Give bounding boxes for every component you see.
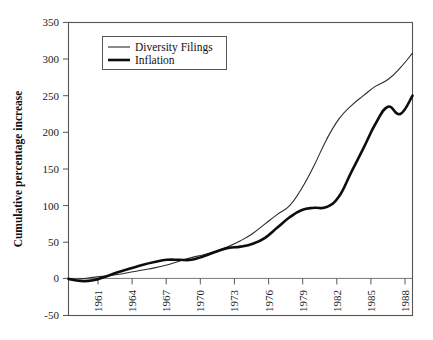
x-tick-label: 1976 (263, 290, 275, 313)
y-tick-label: 0 (54, 272, 60, 284)
x-tick-label: 1970 (194, 290, 206, 313)
x-tick-label: 1988 (399, 290, 411, 313)
chart-container: 350 300 250 200 150 100 50 0 -50 Cumulat… (0, 0, 433, 340)
x-tick-label: 1967 (160, 290, 172, 313)
legend: Diversity Filings Inflation (103, 37, 227, 70)
y-tick-label: -50 (44, 309, 59, 321)
x-tick-label: 1964 (126, 290, 138, 313)
y-tick-label: 100 (43, 200, 60, 212)
x-tick-label: 1973 (228, 290, 240, 313)
x-tick-label: 1985 (365, 290, 377, 313)
x-axis-tick-labels: 1961 1964 1967 1970 1973 1976 1979 1982 … (92, 290, 411, 313)
y-tick-label: 200 (43, 126, 60, 138)
x-tick-label: 1961 (92, 290, 104, 312)
y-tick-label: 250 (43, 90, 60, 102)
x-tick-label: 1979 (297, 290, 309, 313)
legend-label-diversity-filings: Diversity Filings (135, 41, 213, 54)
x-tick-label: 1982 (331, 290, 343, 312)
series-line-inflation (69, 96, 413, 282)
y-axis-title: Cumulative percentage increase (12, 91, 25, 248)
series-line-diversity-filings (69, 53, 413, 279)
y-tick-label: 350 (43, 16, 60, 28)
y-tick-label: 150 (43, 163, 60, 175)
legend-label-inflation: Inflation (135, 54, 175, 66)
y-axis-tick-labels: 350 300 250 200 150 100 50 0 -50 (43, 16, 60, 321)
y-tick-label: 50 (48, 236, 60, 248)
y-tick-label: 300 (43, 53, 60, 65)
x-axis-ticks (98, 278, 405, 284)
line-chart: 350 300 250 200 150 100 50 0 -50 Cumulat… (0, 0, 433, 340)
